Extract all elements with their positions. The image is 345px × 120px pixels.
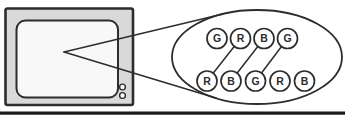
phosphor-dot-label: R xyxy=(276,75,284,87)
crt-monitor xyxy=(6,9,134,106)
phosphor-dot-label: G xyxy=(213,32,221,44)
phosphor-dot-diagram: GRBGRBGRB xyxy=(0,0,345,120)
phosphor-dot-label: G xyxy=(251,75,259,87)
monitor-screen xyxy=(17,21,119,98)
monitor-knob-upper-icon xyxy=(120,84,126,90)
phosphor-dot-label: B xyxy=(301,75,309,87)
phosphor-dot-label: R xyxy=(203,75,211,87)
phosphor-dot-label: B xyxy=(227,75,235,87)
diagram-svg: GRBGRBGRB xyxy=(0,0,345,120)
monitor-knob-lower-icon xyxy=(120,93,126,99)
bottom-rule xyxy=(0,112,345,115)
phosphor-dot-label: B xyxy=(260,32,268,44)
phosphor-dot-label: G xyxy=(283,32,291,44)
phosphor-dot-label: R xyxy=(237,32,245,44)
